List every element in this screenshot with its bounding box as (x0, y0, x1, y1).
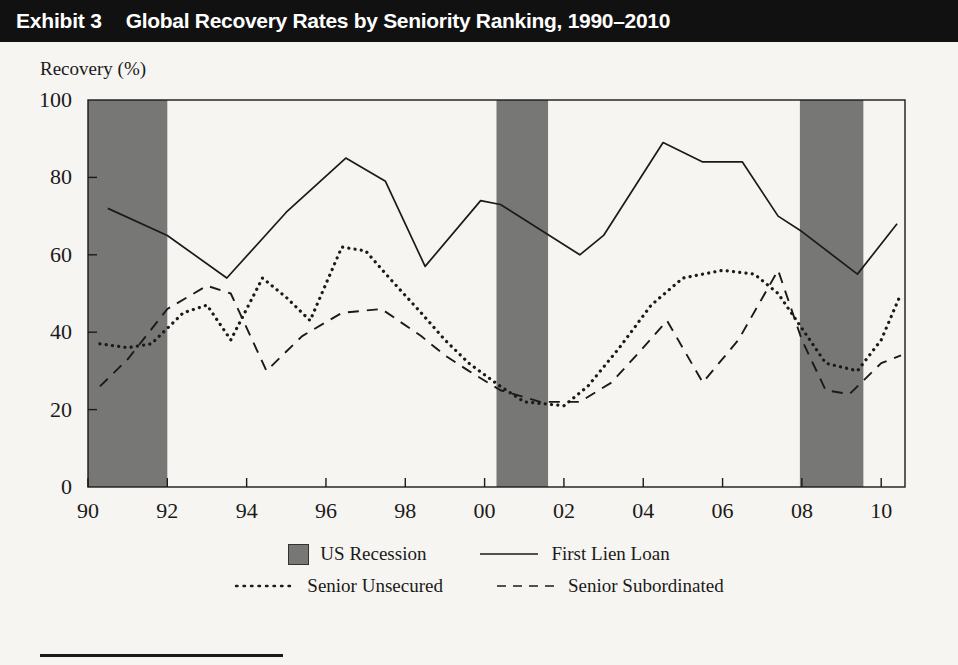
dashed-line-swatch-icon (495, 580, 557, 592)
x-axis-tick-label: 96 (315, 498, 337, 523)
legend-item-senior-unsecured: Senior Unsecured (234, 575, 443, 597)
recovery-rates-line-chart: 0204060801009092949698000204060810 (0, 42, 958, 542)
y-axis-tick-label: 80 (50, 164, 72, 189)
x-axis-tick-label: 02 (553, 498, 575, 523)
x-axis-tick-label: 06 (712, 498, 734, 523)
y-axis-tick-label: 20 (50, 397, 72, 422)
dotted-line-swatch-icon (234, 580, 296, 592)
recession-swatch-icon (288, 544, 309, 565)
page-title: Global Recovery Rates by Seniority Ranki… (126, 9, 670, 33)
recession-band (497, 100, 549, 487)
x-axis-tick-label: 10 (870, 498, 892, 523)
chart-legend: US Recession First Lien Loan Senior Unse… (0, 538, 958, 602)
legend-item-us-recession: US Recession (288, 543, 426, 565)
x-axis-tick-label: 00 (474, 498, 496, 523)
y-axis-tick-label: 0 (61, 474, 72, 499)
legend-label-senior-subordinated: Senior Subordinated (568, 575, 724, 597)
exhibit-number: Exhibit 3 (16, 9, 102, 33)
legend-row-2: Senior Unsecured Senior Subordinated (0, 570, 958, 602)
footnote-separator-rule (40, 654, 283, 657)
recession-band (88, 100, 167, 487)
legend-item-first-lien-loan: First Lien Loan (478, 543, 669, 565)
x-axis-tick-label: 08 (791, 498, 813, 523)
exhibit-title-bar: Exhibit 3 Global Recovery Rates by Senio… (0, 0, 958, 42)
legend-label-first-lien-loan: First Lien Loan (551, 543, 669, 565)
x-axis-tick-label: 90 (77, 498, 99, 523)
x-axis-tick-label: 94 (236, 498, 258, 523)
recession-band (800, 100, 863, 487)
y-axis-tick-label: 40 (50, 319, 72, 344)
x-axis-tick-label: 92 (156, 498, 178, 523)
y-axis-tick-label: 60 (50, 242, 72, 267)
legend-label-us-recession: US Recession (320, 543, 426, 565)
x-axis-tick-label: 04 (632, 498, 654, 523)
legend-item-senior-subordinated: Senior Subordinated (495, 575, 724, 597)
legend-row-1: US Recession First Lien Loan (0, 538, 958, 570)
legend-label-senior-unsecured: Senior Unsecured (307, 575, 443, 597)
y-axis-tick-label: 100 (39, 87, 72, 112)
solid-line-swatch-icon (478, 548, 540, 560)
x-axis-tick-label: 98 (394, 498, 416, 523)
chart-container: Recovery (%) 020406080100909294969800020… (0, 42, 958, 665)
